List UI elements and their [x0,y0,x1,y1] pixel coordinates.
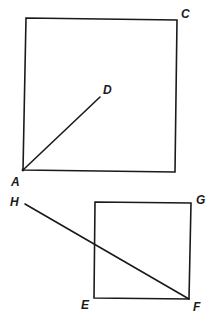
lower-square [94,202,191,299]
label-d: D [103,83,112,97]
label-e: E [81,298,90,312]
geometry-diagram: A C D E F G H [0,0,213,321]
label-f: F [193,300,201,314]
segment-hf [25,204,189,299]
label-h: H [10,195,19,209]
label-a: A [10,175,20,189]
label-g: G [196,193,205,207]
point-a-dot [22,169,25,172]
segment-ad [23,97,100,170]
label-c: C [181,7,190,21]
